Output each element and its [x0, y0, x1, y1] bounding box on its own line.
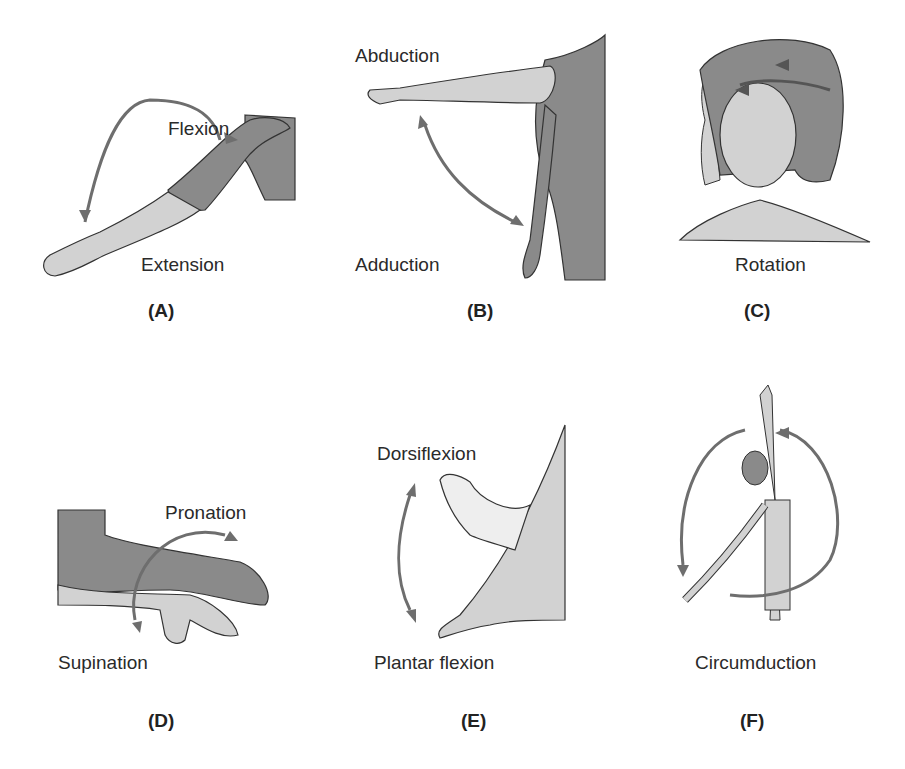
caption-f: (F): [740, 710, 764, 732]
panel-b-arm-illustration: [368, 35, 605, 280]
label-plantar-flexion: Plantar flexion: [374, 652, 494, 674]
label-extension: Extension: [141, 254, 224, 276]
label-adduction: Adduction: [355, 254, 440, 276]
caption-c: (C): [744, 300, 770, 322]
caption-e: (E): [461, 710, 486, 732]
caption-a: (A): [148, 300, 174, 322]
label-pronation: Pronation: [165, 502, 246, 524]
label-circumduction: Circumduction: [695, 652, 816, 674]
caption-b: (B): [467, 300, 493, 322]
caption-d: (D): [148, 710, 174, 732]
label-supination: Supination: [58, 652, 148, 674]
label-rotation: Rotation: [735, 254, 806, 276]
label-abduction: Abduction: [355, 45, 440, 67]
panel-c-head-illustration: [680, 40, 870, 242]
panel-f-body-illustration: [677, 385, 838, 620]
label-dorsiflexion: Dorsiflexion: [377, 443, 476, 465]
label-flexion: Flexion: [168, 118, 229, 140]
panel-d-forearm-illustration: [58, 510, 268, 643]
